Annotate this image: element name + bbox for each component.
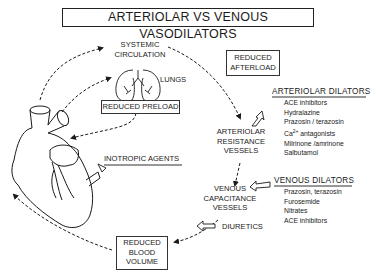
- arteriolar-dilators-heading: ARTERIOLAR DILATORS: [272, 87, 370, 96]
- lungs-illustration: [116, 70, 160, 102]
- reduced-preload-box: REDUCED PRELOAD: [101, 100, 180, 114]
- reduced-afterload-box: REDUCED AFTERLOAD: [226, 50, 280, 76]
- list-item: ACE inhibitors: [284, 216, 354, 226]
- list-item: Hydralazine: [284, 108, 370, 118]
- arteriolar-dilators-panel: ARTERIOLAR DILATORS ACE inhibitors Hydra…: [272, 87, 370, 158]
- arrow-heart-to-systemic: [40, 48, 102, 100]
- venous-dilators-panel: VENOUS DILATORS Prazosin, terazosin Furo…: [274, 176, 354, 225]
- inotropic-agents-label: INOTROPIC AGENTS: [104, 154, 179, 164]
- list-item: ACE inhibitors: [284, 98, 370, 108]
- venous-capacitance-vessels-label: VENOUS CAPACITANCE VESSELS: [198, 184, 262, 213]
- venous-dilators-list: Prazosin, terazosin Furosemide Nitrates …: [284, 187, 354, 225]
- arrow-venous-to-blood-volume: [175, 220, 218, 242]
- heart-illustration: [12, 106, 100, 228]
- list-item: Prazosin, terazosin: [284, 187, 354, 197]
- hollow-arrow-icon: [197, 221, 215, 231]
- arrow-preload-to-heart: [72, 113, 136, 138]
- list-item: Salbutamol: [284, 148, 370, 158]
- hollow-arrow-icon: [252, 111, 264, 126]
- list-item: Nitrates: [284, 206, 354, 216]
- list-item: Ca2+ antagonists: [284, 127, 370, 139]
- list-item: Prazosin / terazosin: [284, 117, 370, 127]
- lungs-label: LUNGS: [160, 75, 186, 85]
- systemic-circulation-label: SYSTEMIC CIRCULATION: [108, 40, 172, 59]
- arteriolar-dilators-list: ACE inhibitors Hydralazine Prazosin / te…: [284, 98, 370, 158]
- list-item: Milrinone /amrinone: [284, 139, 370, 149]
- reduced-blood-volume-box: REDUCED BLOOD VOLUME: [116, 236, 168, 270]
- list-item: Furosemide: [284, 197, 354, 207]
- diuretics-label: DIURETICS: [222, 222, 263, 232]
- arteriolar-resistance-vessels-label: ARTERIOLAR RESISTANCE VESSELS: [204, 127, 278, 156]
- venous-dilators-heading: VENOUS DILATORS: [274, 176, 354, 185]
- arrow-arteriolar-to-venous: [235, 163, 240, 185]
- arrow-blood-volume-to-heart: [14, 195, 112, 250]
